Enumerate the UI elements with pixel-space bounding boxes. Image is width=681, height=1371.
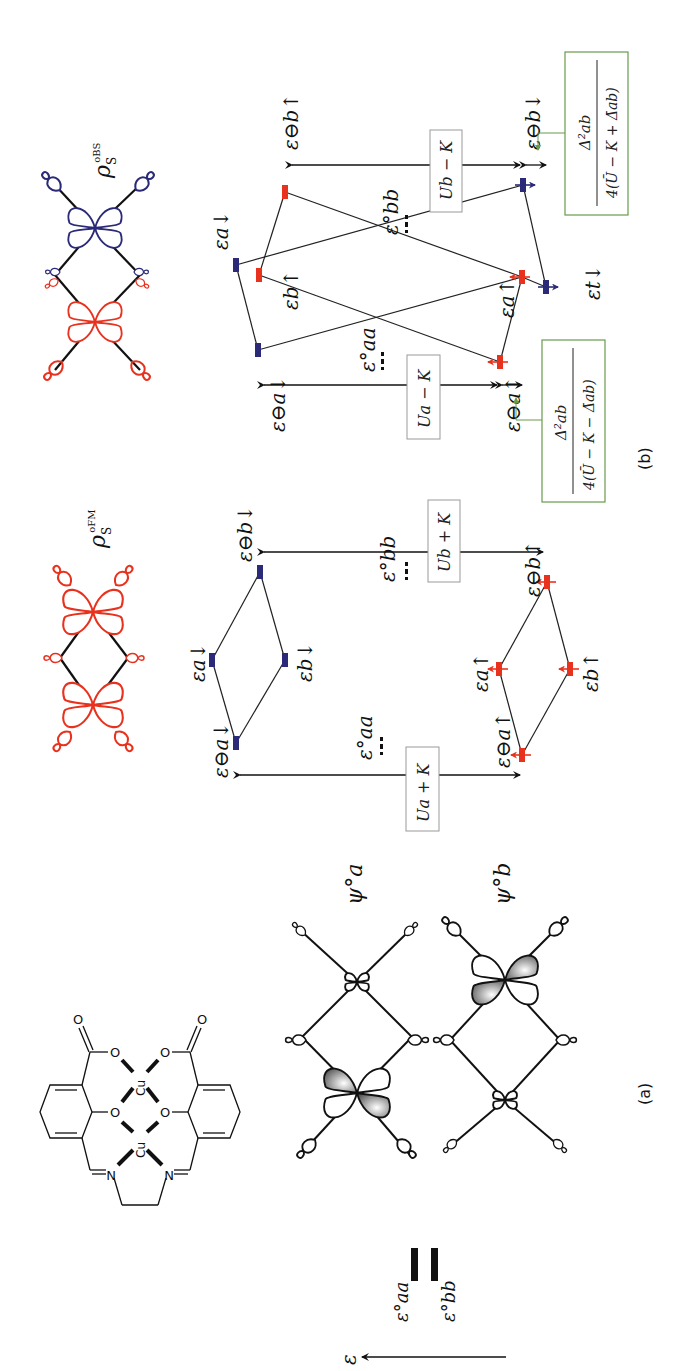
obs-label-b-up: εb↑ xyxy=(279,270,303,310)
svg-text:O: O xyxy=(73,1012,83,1027)
obs-label-b-down-ref: ε⊖b↓ xyxy=(521,93,545,150)
svg-text:O: O xyxy=(197,1012,207,1027)
fm-gap-box-b: Ub + K xyxy=(428,500,460,582)
obs-shift-box-plus: Δ²ab 4(Ū − K + Δ̄ab) xyxy=(538,52,628,215)
obs-label-aa-ref: ε°aa xyxy=(356,327,380,372)
obs-label-a-up: εa↑ xyxy=(495,279,519,318)
fm-label-a-up: εa↑ xyxy=(469,653,493,692)
svg-text:Ua − K: Ua − K xyxy=(415,368,434,428)
obs-gap-arrows xyxy=(264,165,546,385)
cu-dimer-molecule xyxy=(40,1026,240,1205)
obs-gap-box-a: Ua − K xyxy=(407,355,440,439)
energy-axis: ε xyxy=(337,1354,506,1365)
fm-label-a-up-ref: ε⊖a↑ xyxy=(491,712,515,768)
svg-text:Cu: Cu xyxy=(134,1080,148,1096)
fm-correlation-lines xyxy=(212,572,570,755)
fm-label-b-up: εb↑ xyxy=(579,652,603,692)
obs-label-a-down-ref: ε⊖a↓ xyxy=(266,376,290,432)
obs-shift-box-minus: Δ²ab 4(Ū − K − Δ̄ab) xyxy=(516,340,605,502)
energy-axis-label: ε xyxy=(337,1354,361,1365)
svg-text:N: N xyxy=(106,1168,116,1183)
svg-text:O: O xyxy=(160,1045,170,1060)
obs-label-bb-ref: ε°bb xyxy=(379,189,403,235)
svg-text:N: N xyxy=(164,1168,174,1183)
reference-level-bars xyxy=(411,1248,438,1281)
svg-text:4(Ū − K + Δ̄ab): 4(Ū − K + Δ̄ab) xyxy=(603,87,620,199)
fm-label-b-up-ref: ε⊖b↑ xyxy=(521,540,545,597)
obs-density-orbital xyxy=(39,169,157,383)
fm-density-orbital xyxy=(44,563,144,754)
fm-density-label: ρSoFM xyxy=(85,510,114,549)
obs-label-a-up-ref: ε⊖a↑ xyxy=(501,376,525,432)
svg-text:Ua + K: Ua + K xyxy=(414,762,433,822)
psi-b-orbital xyxy=(434,914,577,1155)
molecule-atom-labels: O O O O O O N N Cu Cu xyxy=(73,1012,207,1183)
fm-gap-box-a: Ua + K xyxy=(406,747,439,831)
svg-text:Ub + K: Ub + K xyxy=(435,512,454,572)
ref-bb-label: ε°bb xyxy=(438,1280,459,1322)
svg-text:Δ²ab: Δ²ab xyxy=(552,405,570,441)
fm-label-a-down: εa↓ xyxy=(186,643,210,682)
obs-ref-dashes xyxy=(381,215,408,370)
fm-label-a-down-ref: ε⊖a↓ xyxy=(209,722,233,778)
svg-text:Δ²ab: Δ²ab xyxy=(576,115,594,151)
psi-b-label: ψ°b xyxy=(490,863,515,905)
fm-ref-dashes xyxy=(380,562,408,755)
panel-b-label: (b) xyxy=(635,447,654,470)
obs-gap-box-b: Ub − K xyxy=(430,130,462,212)
obs-density-label: ρSoBS xyxy=(90,142,119,179)
svg-text:O: O xyxy=(110,1105,120,1120)
psi-a-orbital xyxy=(286,920,429,1161)
obs-label-t-down: εt↓ xyxy=(581,264,605,300)
fm-label-b-down: εb↓ xyxy=(293,642,317,682)
psi-a-label: ψ°a xyxy=(342,864,367,905)
obs-label-b-up-ref: ε⊖b↑ xyxy=(279,93,303,150)
svg-text:O: O xyxy=(160,1105,170,1120)
fm-label-aa-ref: ε°aa xyxy=(353,715,377,760)
panel-a-label: (a) xyxy=(635,1083,654,1105)
obs-label-a-down: εa↓ xyxy=(209,211,233,250)
orbital-energy-diagram: ρSoBS Ub − K xyxy=(0,0,681,1371)
fm-label-b-down-ref: ε⊖b↓ xyxy=(233,505,257,562)
ref-aa-label: ε°aa xyxy=(391,1282,412,1322)
fm-label-bb-ref: ε°bb xyxy=(376,536,400,582)
svg-text:4(Ū − K − Δ̄ab): 4(Ū − K − Δ̄ab) xyxy=(580,379,597,491)
svg-text:Ub − K: Ub − K xyxy=(437,140,456,200)
svg-text:O: O xyxy=(110,1045,120,1060)
svg-text:Cu: Cu xyxy=(134,1142,148,1158)
